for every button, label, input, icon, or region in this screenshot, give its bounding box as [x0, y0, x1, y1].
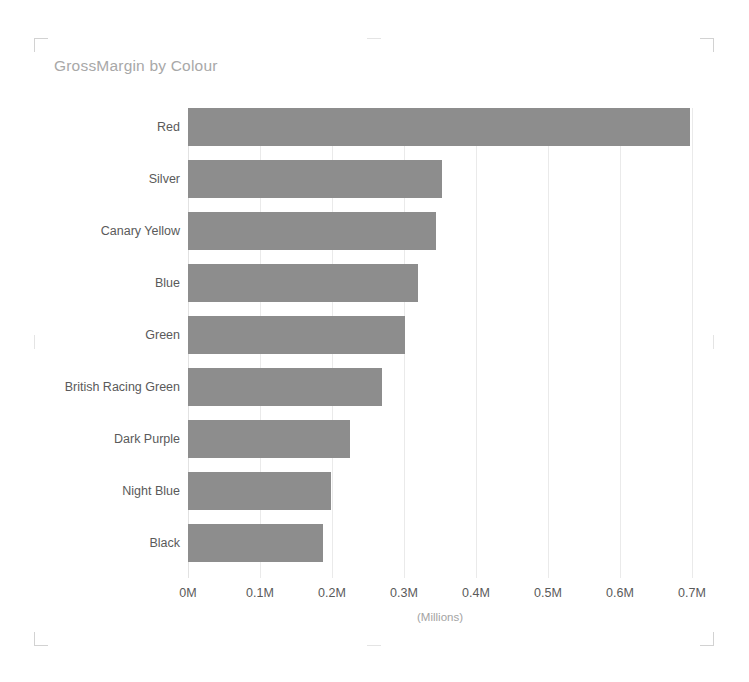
chart-bar[interactable] — [188, 472, 331, 510]
chart-title: GrossMargin by Colour — [54, 57, 218, 75]
chart-bar-row[interactable]: Dark Purple — [188, 420, 692, 458]
chart-visual-container[interactable]: GrossMargin by Colour 0M0.1M0.2M0.3M0.4M… — [38, 42, 710, 642]
chart-bar-row[interactable]: Blue — [188, 264, 692, 302]
x-axis-tick-label: 0.6M — [606, 586, 634, 600]
y-axis-category-label: Blue — [155, 276, 180, 290]
chart-bar[interactable] — [188, 160, 442, 198]
chart-bar-row[interactable]: Green — [188, 316, 692, 354]
x-axis-tick-label: 0.3M — [390, 586, 418, 600]
resize-handle-top-center-icon[interactable] — [367, 38, 381, 43]
chart-bar-row[interactable]: Night Blue — [188, 472, 692, 510]
resize-handle-bottom-center-icon[interactable] — [367, 641, 381, 646]
resize-handle-top-left-icon[interactable] — [34, 38, 48, 52]
y-axis-category-label: Night Blue — [122, 484, 180, 498]
x-axis-title: (Millions) — [417, 611, 463, 623]
resize-handle-bottom-left-icon[interactable] — [34, 632, 48, 646]
gridline — [692, 108, 693, 578]
chart-bar[interactable] — [188, 316, 405, 354]
chart-bar[interactable] — [188, 368, 382, 406]
x-axis-tick-label: 0.1M — [246, 586, 274, 600]
chart-bar[interactable] — [188, 264, 418, 302]
resize-handle-left-center-icon[interactable] — [34, 335, 39, 349]
x-axis-tick-label: 0.7M — [678, 586, 706, 600]
chart-bar[interactable] — [188, 524, 323, 562]
chart-bar-row[interactable]: Canary Yellow — [188, 212, 692, 250]
chart-bar-row[interactable]: Red — [188, 108, 692, 146]
chart-bar[interactable] — [188, 108, 690, 146]
chart-bar[interactable] — [188, 212, 436, 250]
chart-plot-area: 0M0.1M0.2M0.3M0.4M0.5M0.6M0.7MRedSilverC… — [188, 108, 692, 578]
x-axis-tick-label: 0.2M — [318, 586, 346, 600]
y-axis-category-label: Red — [157, 120, 180, 134]
resize-handle-top-right-icon[interactable] — [700, 38, 714, 52]
x-axis-tick-label: 0.4M — [462, 586, 490, 600]
y-axis-category-label: Canary Yellow — [101, 224, 180, 238]
y-axis-category-label: Green — [145, 328, 180, 342]
x-axis-tick-label: 0.5M — [534, 586, 562, 600]
resize-handle-right-center-icon[interactable] — [709, 335, 714, 349]
chart-bar-row[interactable]: British Racing Green — [188, 368, 692, 406]
y-axis-category-label: Dark Purple — [114, 432, 180, 446]
y-axis-category-label: Black — [149, 536, 180, 550]
resize-handle-bottom-right-icon[interactable] — [700, 632, 714, 646]
chart-bar-row[interactable]: Black — [188, 524, 692, 562]
y-axis-category-label: British Racing Green — [65, 380, 180, 394]
x-axis-tick-label: 0M — [179, 586, 196, 600]
chart-bar[interactable] — [188, 420, 350, 458]
chart-bar-row[interactable]: Silver — [188, 160, 692, 198]
y-axis-category-label: Silver — [149, 172, 180, 186]
